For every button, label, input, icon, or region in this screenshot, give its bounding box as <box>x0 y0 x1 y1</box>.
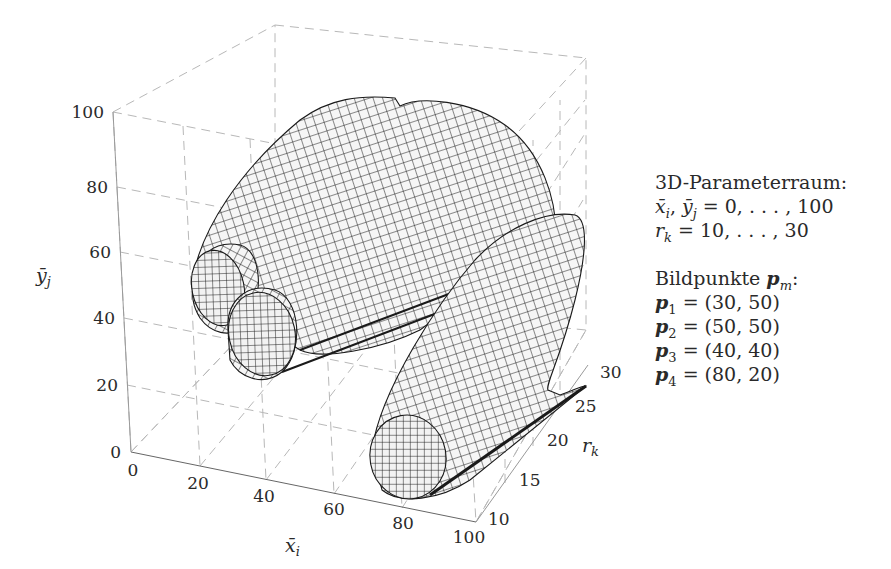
legend-point: p1 = (30, 50) <box>655 290 847 314</box>
x-tick: 20 <box>187 473 209 493</box>
y-tick: 100 <box>72 102 104 122</box>
y-tick: 0 <box>110 442 121 462</box>
cone-surfaces <box>185 97 586 505</box>
legend-annotation: 3D-Parameterraum: x̄i, ȳj = 0, . . . , 1… <box>655 170 847 386</box>
y-tick: 20 <box>96 375 118 395</box>
r-tick: 15 <box>519 470 541 490</box>
y-tick: 80 <box>86 177 108 197</box>
y-tick: 60 <box>89 242 111 262</box>
x-tick: 100 <box>453 527 485 547</box>
x-tick: 40 <box>253 486 275 506</box>
legend-point: p2 = (50, 50) <box>655 314 847 338</box>
r-axis-label: rk <box>582 434 599 459</box>
x-tick: 60 <box>323 499 345 519</box>
y-axis-label: ȳj <box>35 264 51 289</box>
legend-range-r: rk = 10, . . . , 30 <box>655 218 847 242</box>
y-axis-ticks: 100 80 60 40 20 0 <box>72 102 121 462</box>
r-tick: 30 <box>600 362 622 382</box>
legend-range-xy: x̄i, ȳj = 0, . . . , 100 <box>655 194 847 218</box>
x-tick: 80 <box>392 513 414 533</box>
r-tick: 20 <box>547 430 569 450</box>
r-tick: 25 <box>575 396 597 416</box>
x-tick: 0 <box>128 460 139 480</box>
x-axis-label: x̄i <box>285 534 300 559</box>
legend-heading: 3D-Parameterraum: <box>655 170 847 194</box>
legend-point: p4 = (80, 20) <box>655 362 847 386</box>
legend-points-heading: Bildpunkte pm: <box>655 266 847 290</box>
r-tick: 10 <box>488 509 510 529</box>
legend-point: p3 = (40, 40) <box>655 338 847 362</box>
y-tick: 40 <box>93 308 115 328</box>
